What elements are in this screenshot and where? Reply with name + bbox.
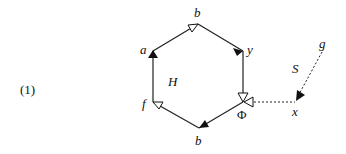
label-phi: Φ <box>237 107 247 122</box>
dashed-edges <box>250 52 322 102</box>
label-b-top: b <box>194 5 201 20</box>
diagram: (1) a b y H f Φ b x g S <box>0 0 346 154</box>
label-x: x <box>291 104 298 119</box>
arrow-filled-a-icon <box>148 50 158 58</box>
equation-number: (1) <box>20 82 35 97</box>
arrow-filled-bbottom-icon <box>199 120 209 128</box>
label-a: a <box>140 42 147 57</box>
arrow-hollow-btop-icon <box>188 24 198 32</box>
edge-btop-y <box>198 24 243 51</box>
arrow-filled-y-icon <box>233 48 243 56</box>
label-b-bottom: b <box>195 133 202 148</box>
label-g: g <box>319 36 326 51</box>
label-S: S <box>292 61 299 76</box>
hexagon-edges <box>153 24 243 128</box>
arrow-hollow-f-icon <box>153 102 163 109</box>
label-y: y <box>245 42 253 57</box>
label-H: H <box>167 74 178 89</box>
label-f: f <box>142 96 148 111</box>
edge-g-x <box>298 52 322 96</box>
